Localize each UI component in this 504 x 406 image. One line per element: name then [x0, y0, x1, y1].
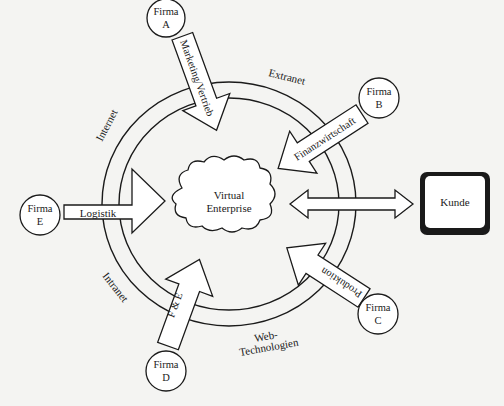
customer-label: Kunde [440, 196, 469, 208]
virtual-enterprise-cloud: Virtual Enterprise [172, 156, 275, 232]
arrow-marketing-vertrieb[interactable]: Marketing/Vertrieb [159, 28, 240, 139]
firm-d-line2: D [162, 372, 170, 383]
firm-b[interactable]: Firma B [359, 78, 399, 118]
firm-e-line2: E [37, 216, 43, 227]
firm-circle [359, 78, 399, 118]
firm-circle [20, 195, 60, 235]
firm-a[interactable]: Firma A [147, 0, 185, 37]
ring-label-extranet: Extranet [268, 66, 307, 87]
firm-a-line2: A [162, 19, 170, 30]
firm-a-line1: Firma [153, 6, 178, 17]
firm-e[interactable]: Firma E [20, 195, 60, 235]
firm-circle [146, 351, 186, 391]
cloud-label-1: Virtual [214, 189, 245, 201]
arrow-logistik[interactable]: Logistik [64, 169, 165, 235]
firm-e-line1: Firma [27, 203, 52, 214]
arrow-label-finanz: Finanzwirtschaft [292, 115, 357, 163]
arrow-finanzwirtschaft[interactable]: Finanzwirtschaft [265, 93, 376, 189]
firm-b-line2: B [375, 99, 382, 110]
firm-d[interactable]: Firma D [146, 351, 186, 391]
double-arrow-kunde[interactable] [290, 190, 413, 218]
firm-circle [358, 294, 398, 334]
firm-c[interactable]: Firma C [358, 294, 398, 334]
firm-b-line1: Firma [366, 86, 391, 97]
arrow-label-logistik: Logistik [80, 207, 117, 219]
ring-label-internet: Internet [93, 107, 120, 143]
virtual-enterprise-diagram: Extranet Internet Intranet Web- Technolo… [0, 0, 504, 406]
firm-c-line1: Firma [365, 302, 390, 313]
customer-box[interactable]: Kunde [420, 172, 490, 235]
firm-d-line1: Firma [153, 359, 178, 370]
cloud-label-2: Enterprise [206, 202, 251, 214]
arrow-shape [145, 251, 223, 355]
firm-c-line2: C [374, 315, 381, 326]
arrow-f-und-e[interactable]: F & E [145, 251, 223, 355]
